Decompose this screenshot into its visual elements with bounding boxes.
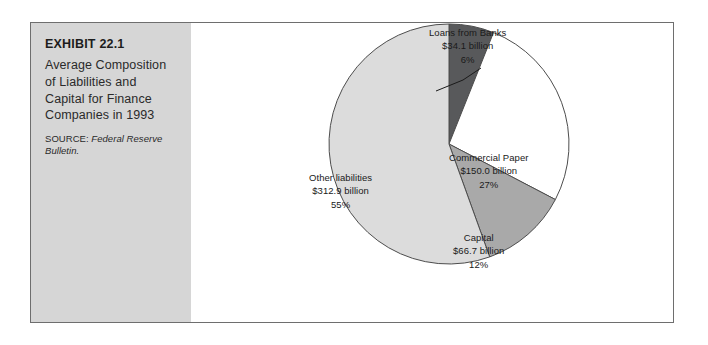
- pie-label-percent: 55%: [309, 198, 372, 211]
- pie-label-other-liabilities: Other liabilities $312.9 billion 55%: [309, 171, 372, 211]
- pie-label-name: Capital: [453, 231, 504, 244]
- caption-panel: EXHIBIT 22.1 Average Composition of Liab…: [31, 23, 191, 322]
- exhibit-frame: EXHIBIT 22.1 Average Composition of Liab…: [30, 22, 674, 323]
- pie-label-loans-from-banks: Loans from Banks $34.1 billion 6%: [429, 26, 506, 66]
- pie-label-percent: 12%: [453, 258, 504, 271]
- pie-label-percent: 6%: [429, 53, 506, 66]
- exhibit-number: EXHIBIT 22.1: [45, 37, 178, 51]
- pie-label-name: Loans from Banks: [429, 26, 506, 39]
- pie-label-capital: Capital $66.7 billion 12%: [453, 231, 504, 271]
- pie-label-value: $66.7 billion: [453, 244, 504, 257]
- exhibit-source: SOURCE: Federal Reserve Bulletin.: [45, 133, 178, 158]
- pie-label-value: $34.1 billion: [429, 39, 506, 52]
- pie-label-value: $150.0 billion: [449, 164, 528, 177]
- exhibit-source-label: SOURCE:: [45, 133, 89, 144]
- pie-label-name: Other liabilities: [309, 171, 372, 184]
- pie-chart: Loans from Banks $34.1 billion 6% Commer…: [191, 23, 673, 322]
- exhibit-title: Average Composition of Liabilities and C…: [45, 57, 178, 124]
- pie-label-value: $312.9 billion: [309, 184, 372, 197]
- pie-label-commercial-paper: Commercial Paper $150.0 billion 27%: [449, 151, 528, 191]
- pie-label-name: Commercial Paper: [449, 151, 528, 164]
- pie-chart-svg: [191, 23, 675, 322]
- pie-label-percent: 27%: [449, 178, 528, 191]
